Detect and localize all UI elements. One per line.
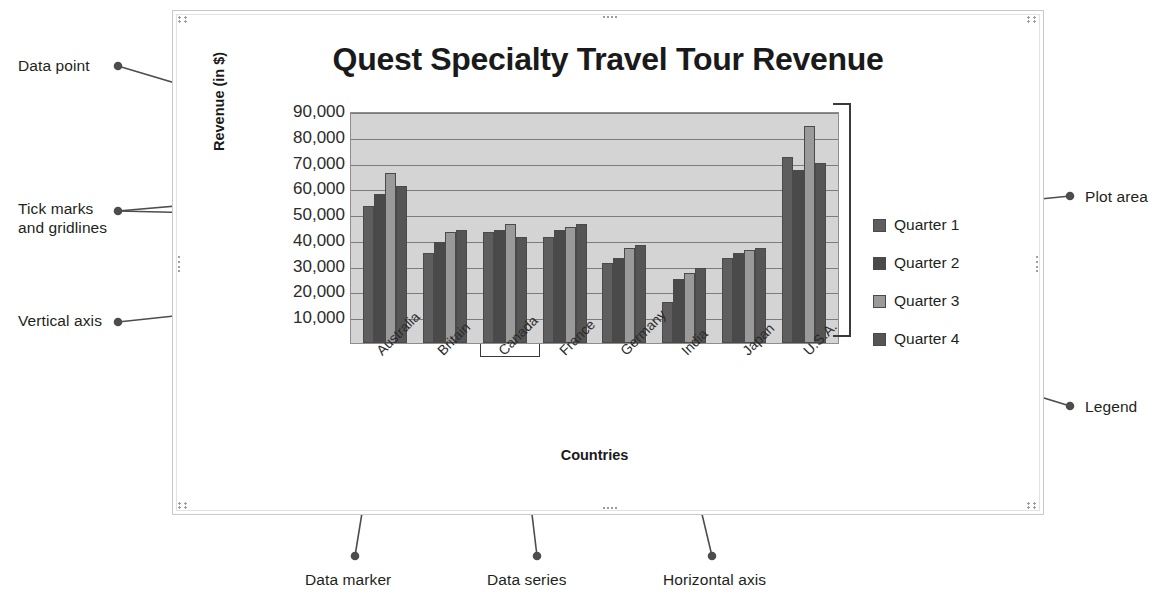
vertical-axis-tick-label: 10,000 (293, 308, 345, 328)
data-marker[interactable] (505, 224, 516, 343)
data-marker[interactable] (602, 263, 613, 343)
vertical-axis-tick-label: 50,000 (293, 205, 345, 225)
chart-object[interactable]: Quest Specialty Travel Tour Revenue Reve… (172, 10, 1044, 515)
data-series-container (351, 113, 838, 343)
data-marker[interactable] (363, 206, 374, 343)
vertical-axis-tick-labels[interactable]: 90,00080,00070,00060,00050,00040,00030,0… (253, 112, 345, 344)
annotation-data-point: Data point (18, 57, 90, 76)
vertical-axis-tick-label: 40,000 (293, 231, 345, 251)
data-marker[interactable] (423, 253, 434, 343)
data-marker[interactable] (543, 237, 554, 343)
data-point-group (543, 113, 587, 343)
legend-swatch-icon (873, 295, 886, 308)
data-marker[interactable] (815, 163, 826, 343)
annotation-data-marker: Data marker (305, 571, 391, 590)
data-marker[interactable] (565, 227, 576, 343)
annotation-tick-marks-and-gridlines: Tick marks and gridlines (18, 200, 107, 238)
data-point-group (423, 113, 467, 343)
data-point-group (483, 113, 527, 343)
resize-handle-icon-bottom-right[interactable] (1026, 501, 1039, 510)
resize-handle-icon-right-center[interactable] (1034, 255, 1040, 272)
legend-item[interactable]: Quarter 4 (873, 330, 959, 348)
annotation-vertical-axis: Vertical axis (18, 312, 102, 331)
data-marker[interactable] (434, 242, 445, 343)
data-marker[interactable] (554, 230, 565, 343)
horizontal-axis-tick-labels[interactable]: AustraliaBritainCanadaFranceGermanyIndia… (350, 347, 839, 417)
data-marker[interactable] (494, 230, 505, 343)
data-marker[interactable] (744, 250, 755, 343)
data-point-group (662, 113, 706, 343)
data-marker[interactable] (385, 173, 396, 343)
annotation-data-series: Data series (487, 571, 567, 590)
data-marker[interactable] (613, 258, 624, 343)
legend-item[interactable]: Quarter 1 (873, 216, 959, 234)
data-point-group (722, 113, 766, 343)
vertical-axis-tick-label: 30,000 (293, 257, 345, 277)
annotation-legend: Legend (1085, 398, 1137, 417)
vertical-axis-tick-label: 90,000 (293, 102, 345, 122)
legend[interactable]: Quarter 1Quarter 2Quarter 3Quarter 4 (873, 216, 959, 368)
legend-item-label: Quarter 3 (894, 292, 959, 310)
data-marker[interactable] (804, 126, 815, 343)
resize-handle-icon-top-left[interactable] (177, 15, 190, 24)
data-marker[interactable] (722, 258, 733, 343)
vertical-axis-tick-label: 80,000 (293, 128, 345, 148)
chart-title[interactable]: Quest Specialty Travel Tour Revenue (173, 41, 1043, 78)
data-marker[interactable] (733, 253, 744, 343)
data-marker[interactable] (793, 170, 804, 343)
annotation-horizontal-axis: Horizontal axis (663, 571, 766, 590)
legend-swatch-icon (873, 333, 886, 346)
legend-item-label: Quarter 4 (894, 330, 959, 348)
resize-handle-icon-top-center[interactable] (602, 14, 617, 20)
vertical-axis-tick-label: 70,000 (293, 154, 345, 174)
resize-handle-icon-top-right[interactable] (1026, 15, 1039, 24)
legend-item-label: Quarter 1 (894, 216, 959, 234)
legend-swatch-icon (873, 257, 886, 270)
legend-item[interactable]: Quarter 2 (873, 254, 959, 272)
plot-area-selection-bracket (833, 103, 851, 337)
resize-handle-icon-bottom-left[interactable] (177, 501, 190, 510)
legend-item-label: Quarter 2 (894, 254, 959, 272)
resize-handle-icon-left-center[interactable] (176, 255, 182, 272)
vertical-axis-tick-label: 20,000 (293, 282, 345, 302)
annotation-plot-area: Plot area (1085, 188, 1148, 207)
data-marker[interactable] (673, 279, 684, 343)
data-point-group (602, 113, 646, 343)
data-marker[interactable] (782, 157, 793, 343)
data-point-group (363, 113, 407, 343)
legend-item[interactable]: Quarter 3 (873, 292, 959, 310)
data-marker[interactable] (374, 194, 385, 344)
vertical-axis-tick-label: 60,000 (293, 179, 345, 199)
horizontal-axis-title[interactable]: Countries (350, 447, 839, 463)
data-point-group (782, 113, 826, 343)
plot-area[interactable] (350, 112, 839, 344)
resize-handle-icon-bottom-center[interactable] (602, 505, 617, 511)
vertical-axis-title[interactable]: Revenue (in $) (211, 52, 227, 151)
data-marker[interactable] (483, 232, 494, 343)
legend-swatch-icon (873, 219, 886, 232)
